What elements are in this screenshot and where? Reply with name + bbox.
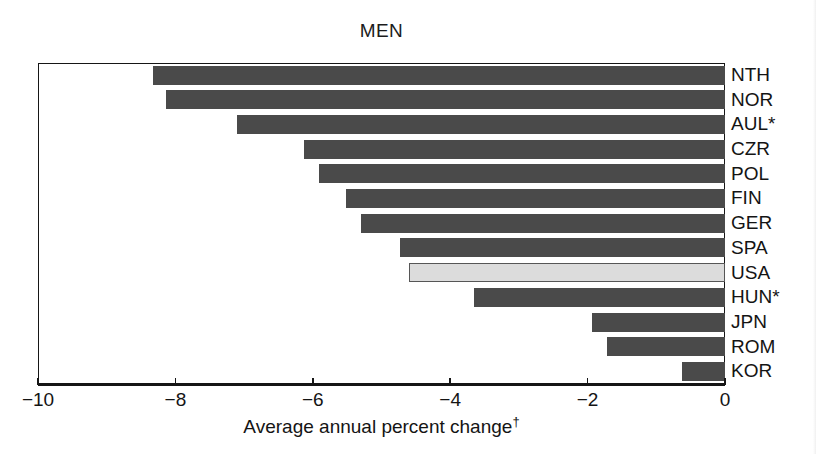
x-axis-title-text: Average annual percent change	[243, 416, 512, 437]
category-label-nor: NOR	[731, 88, 773, 113]
category-label-pol: POL	[731, 162, 769, 187]
bar-aul	[237, 115, 725, 134]
category-label-rom: ROM	[731, 335, 775, 360]
bar-row	[38, 112, 725, 137]
category-label-czr: CZR	[731, 137, 770, 162]
chart-title: MEN	[38, 20, 725, 42]
x-axis-line	[38, 384, 725, 386]
bar-rom	[607, 337, 725, 356]
category-label-ger: GER	[731, 211, 772, 236]
category-label-aul: AUL*	[731, 112, 775, 137]
x-axis: −10−8−6−4−20	[38, 384, 725, 385]
x-tick-mark	[724, 378, 726, 385]
bar-czr	[304, 140, 725, 159]
category-label-jpn: JPN	[731, 310, 767, 335]
x-tick-label: 0	[720, 389, 731, 411]
bar-row	[38, 261, 725, 286]
bar-row	[38, 162, 725, 187]
category-label-kor: KOR	[731, 359, 772, 384]
x-tick-label: −2	[577, 389, 599, 411]
bar-row	[38, 88, 725, 113]
category-label-fin: FIN	[731, 186, 762, 211]
bar-chart-figure: MEN NTHNORAUL*CZRPOLFINGERSPAUSAHUN*JPNR…	[0, 0, 816, 454]
x-tick-label: −10	[22, 389, 54, 411]
bar-spa	[400, 238, 725, 257]
bar-hun	[474, 288, 725, 307]
x-tick-label: −8	[165, 389, 187, 411]
x-axis-title: Average annual percent change†	[38, 416, 725, 438]
category-axis-labels: NTHNORAUL*CZRPOLFINGERSPAUSAHUN*JPNROMKO…	[731, 63, 816, 384]
x-tick-mark	[587, 378, 589, 385]
bar-nth	[153, 66, 725, 85]
category-label-nth: NTH	[731, 63, 770, 88]
x-tick-mark	[449, 378, 451, 385]
category-label-usa: USA	[731, 261, 770, 286]
bar-row	[38, 285, 725, 310]
bar-ger	[361, 214, 725, 233]
bar-row	[38, 335, 725, 360]
bar-row	[38, 359, 725, 384]
x-axis-title-footnote-marker: †	[512, 414, 519, 429]
bar-fin	[346, 189, 725, 208]
bar-usa	[409, 263, 725, 282]
bar-row	[38, 310, 725, 335]
bar-row	[38, 63, 725, 88]
bar-row	[38, 211, 725, 236]
category-label-spa: SPA	[731, 236, 768, 261]
bars-layer	[38, 63, 725, 384]
bar-row	[38, 137, 725, 162]
bar-row	[38, 186, 725, 211]
x-tick-label: −4	[439, 389, 461, 411]
x-tick-label: −6	[302, 389, 324, 411]
x-tick-mark	[37, 378, 39, 385]
x-tick-mark	[175, 378, 177, 385]
category-label-hun: HUN*	[731, 285, 780, 310]
x-tick-mark	[312, 378, 314, 385]
bar-pol	[319, 164, 725, 183]
bar-jpn	[592, 313, 725, 332]
bar-kor	[682, 362, 725, 381]
bar-row	[38, 236, 725, 261]
bar-nor	[166, 90, 725, 109]
